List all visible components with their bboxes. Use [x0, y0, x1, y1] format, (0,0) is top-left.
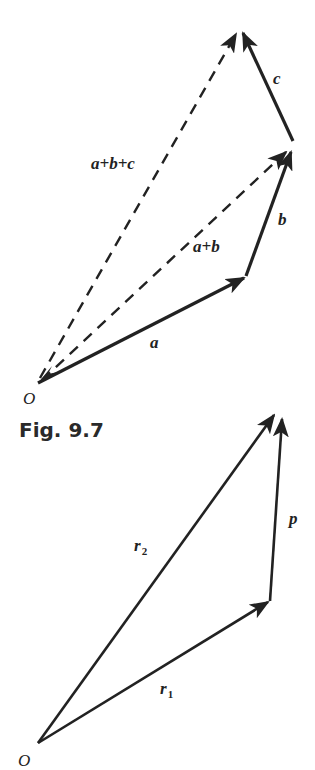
label-r2-main: r: [134, 536, 141, 555]
label-a: a: [150, 334, 159, 351]
figure-caption: Fig. 9.7: [19, 420, 104, 440]
vector-c: [243, 33, 293, 141]
vector-p: [270, 419, 282, 601]
label-b: b: [278, 211, 287, 228]
label-a-plus-b-plus-c: a+b+c: [91, 155, 135, 172]
origin-label-bottom: O: [18, 752, 30, 769]
label-r2-subscript: 2: [142, 545, 148, 557]
label-r2: r2: [134, 537, 147, 554]
figure-top: [38, 33, 293, 383]
vector-r2: [38, 415, 274, 743]
vector-a-plus-b-plus-c: [40, 34, 236, 378]
origin-label-top: O: [23, 390, 35, 407]
label-r1-subscript: 1: [168, 688, 174, 700]
label-p: p: [289, 510, 298, 527]
label-a-plus-b: a+b: [193, 238, 220, 255]
vector-r1: [38, 602, 268, 743]
label-r1: r1: [160, 680, 173, 697]
label-c: c: [273, 70, 281, 87]
vector-a: [38, 278, 244, 383]
label-r1-main: r: [160, 679, 167, 698]
